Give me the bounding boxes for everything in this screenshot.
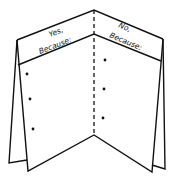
right-bullet [104, 59, 107, 62]
left-bullet [29, 98, 32, 101]
right-bullet [102, 117, 105, 120]
left-heading-line2: Because: [37, 35, 72, 56]
front-left-edge [17, 39, 163, 172]
left-bullet [32, 128, 35, 131]
foldable-diagram: Yes, Because: No, Because: [0, 0, 179, 185]
right-heading-line1: No, [117, 21, 132, 34]
right-bullet [103, 88, 106, 91]
left-bullet [26, 73, 29, 76]
